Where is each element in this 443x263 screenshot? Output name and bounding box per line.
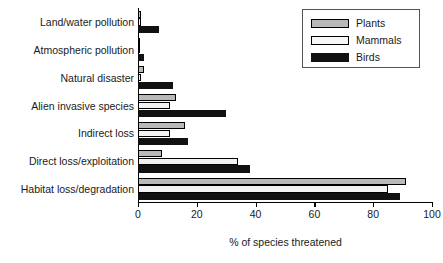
legend-label-plants: Plants <box>356 17 385 29</box>
legend-label-birds: Birds <box>356 51 380 63</box>
category-label: Atmospheric pollution <box>2 44 134 56</box>
tick-label: 40 <box>250 208 262 220</box>
bar-birds <box>138 26 159 33</box>
legend-swatch-plants <box>311 19 349 28</box>
bar-mammals <box>138 185 388 192</box>
bar-birds <box>138 165 250 172</box>
chart-legend: Plants Mammals Birds <box>302 9 420 68</box>
bar-mammals <box>138 158 238 165</box>
bar-plants <box>138 150 162 157</box>
tick-label: 20 <box>191 208 203 220</box>
bar-mammals <box>138 18 141 25</box>
value-axis-ticks: 020406080100 <box>138 203 433 225</box>
tick-mark <box>373 203 374 207</box>
tick-label: 100 <box>423 208 441 220</box>
bar-group <box>138 150 432 173</box>
category-label: Alien invasive species <box>2 100 134 112</box>
bar-birds <box>138 54 144 61</box>
bar-plants <box>138 122 185 129</box>
legend-swatch-birds <box>311 53 349 62</box>
tick-mark <box>432 203 433 207</box>
category-label: Natural disaster <box>2 72 134 84</box>
bar-plants <box>138 178 406 185</box>
bar-birds <box>138 193 400 200</box>
category-label: Land/water pollution <box>2 16 134 28</box>
tick-mark <box>138 203 139 207</box>
tick-mark <box>197 203 198 207</box>
category-label: Direct loss/exploitation <box>2 155 134 167</box>
bar-group <box>138 66 432 89</box>
legend-label-mammals: Mammals <box>356 34 402 46</box>
bar-mammals <box>138 74 141 81</box>
tick-label: 60 <box>309 208 321 220</box>
bar-birds <box>138 138 188 145</box>
legend-item-birds: Birds <box>311 49 419 65</box>
bar-group <box>138 122 432 145</box>
bar-birds <box>138 110 226 117</box>
category-axis-labels: Land/water pollutionAtmospheric pollutio… <box>0 8 134 203</box>
category-label: Habitat loss/degradation <box>2 183 134 195</box>
x-axis-title: % of species threatened <box>138 236 433 248</box>
bar-chart: Land/water pollutionAtmospheric pollutio… <box>0 0 443 263</box>
legend-swatch-mammals <box>311 36 349 45</box>
bar-group <box>138 94 432 117</box>
legend-item-plants: Plants <box>311 15 419 31</box>
tick-label: 80 <box>367 208 379 220</box>
legend-item-mammals: Mammals <box>311 32 419 48</box>
bar-plants <box>138 94 176 101</box>
bar-plants <box>138 66 144 73</box>
bar-mammals <box>138 130 170 137</box>
bar-mammals <box>138 102 170 109</box>
category-label: Indirect loss <box>2 127 134 139</box>
bar-group <box>138 178 432 201</box>
tick-mark <box>314 203 315 207</box>
bar-birds <box>138 82 173 89</box>
bar-plants <box>138 11 141 18</box>
tick-mark <box>256 203 257 207</box>
bar-plants <box>138 38 140 45</box>
tick-label: 0 <box>135 208 141 220</box>
bar-mammals <box>138 46 140 53</box>
